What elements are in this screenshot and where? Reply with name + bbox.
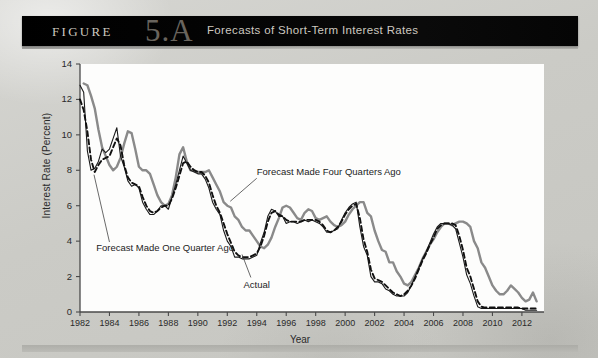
chart-svg xyxy=(22,52,578,324)
y-tick-label: 14 xyxy=(46,58,72,69)
y-axis-title: Interest Rate (Percent) xyxy=(41,76,52,256)
series-line xyxy=(80,85,537,310)
figure-number: 5.A xyxy=(145,13,194,49)
figure-header-banner: FIGURE 5.A Forecasts of Short-Term Inter… xyxy=(22,16,578,46)
series-group xyxy=(80,83,537,310)
chart-container: 02468101214 1982198419861988199019921994… xyxy=(22,52,578,324)
annotation-label: Actual xyxy=(244,279,270,290)
page-background: FIGURE 5.A Forecasts of Short-Term Inter… xyxy=(0,0,598,358)
y-tick-label: 2 xyxy=(46,271,72,282)
annotation-leader-line xyxy=(94,175,109,242)
annotation-label: Forecast Made One Quarter Ago xyxy=(96,242,234,253)
figure-title: Forecasts of Short-Term Interest Rates xyxy=(207,24,418,36)
figure-label: FIGURE xyxy=(52,24,113,40)
x-tick-label: 2012 xyxy=(502,318,542,328)
figure-footer-bar xyxy=(22,345,578,352)
annotation-label: Forecast Made Four Quarters Ago xyxy=(257,166,401,177)
y-tick-label: 0 xyxy=(46,306,72,317)
series-line xyxy=(84,83,537,301)
axes-group xyxy=(76,64,544,316)
annotation-leader-line xyxy=(230,178,257,201)
x-axis-title: Year xyxy=(22,334,578,345)
